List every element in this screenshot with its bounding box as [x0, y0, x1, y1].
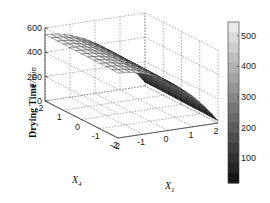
z-tick-label: 400: [27, 47, 42, 57]
z-axis-unit: T/min: [28, 66, 38, 88]
x4-tick-label: 0: [75, 122, 80, 132]
x1-tick-label: -1: [137, 137, 145, 147]
tick-labels: 0200400600-2-1012-2-1012: [27, 23, 219, 151]
x1-tick-label: 2: [213, 126, 218, 136]
colorbar-tick-label: 500: [241, 31, 256, 41]
x-axis-label: X1: [164, 180, 175, 194]
colorbar-tick-label: 400: [241, 61, 256, 71]
axes-grid: [45, 13, 218, 138]
colorbar: 100200300400500: [228, 22, 256, 183]
x4-tick-label: 2: [38, 103, 43, 113]
z-tick-label: 600: [27, 23, 42, 33]
y-axis-label: X4: [71, 174, 82, 188]
x4-tick-label: -1: [92, 131, 100, 141]
surface-plot: 0200400600-2-1012-2-1012 100200300400500…: [0, 0, 270, 203]
x4-tick-label: 1: [57, 112, 62, 122]
colorbar-tick-label: 200: [241, 123, 256, 133]
x1-tick-label: 0: [163, 134, 168, 144]
x1-tick-label: -2: [112, 141, 120, 151]
x1-tick-label: 1: [188, 130, 193, 140]
surface-mesh: [45, 34, 218, 121]
colorbar-tick-label: 300: [241, 92, 256, 102]
z-axis-label: Drying Time: [27, 83, 38, 138]
colorbar-tick-label: 100: [241, 153, 256, 163]
